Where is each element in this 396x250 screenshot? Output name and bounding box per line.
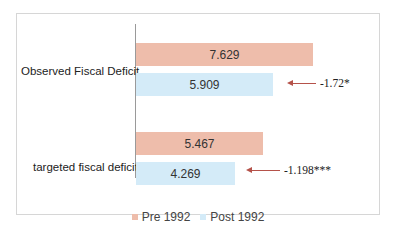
bar-value-label: 5.467 [184, 137, 214, 151]
legend: Pre 1992 Post 1992 [0, 210, 396, 224]
legend-swatch-icon [132, 214, 138, 220]
bar-targeted-post-1992: 4.269 [136, 162, 235, 185]
category-label-observed: Observed Fiscal Deficit [21, 65, 139, 77]
bar-observed-post-1992: 5.909 [136, 73, 273, 96]
legend-swatch-icon [200, 214, 206, 220]
legend-label: Pre 1992 [142, 210, 191, 224]
category-label-targeted: targeted fiscal deficit [33, 161, 138, 173]
bar-value-label: 7.629 [209, 48, 239, 62]
annotation-text: -1.198*** [284, 164, 331, 176]
bar-observed-pre-1992: 7.629 [136, 43, 313, 66]
annotation-text: -1.72* [320, 77, 350, 89]
bar-value-label: 5.909 [189, 78, 219, 92]
annotation-targeted: -1.198*** [246, 164, 331, 176]
legend-item-pre-1992: Pre 1992 [132, 210, 191, 224]
legend-item-post-1992: Post 1992 [200, 210, 264, 224]
arrow-line [252, 170, 280, 171]
bar-value-label: 4.269 [170, 167, 200, 181]
bar-targeted-pre-1992: 5.467 [136, 132, 263, 155]
arrow-line [293, 83, 316, 84]
annotation-observed: -1.72* [287, 77, 350, 89]
legend-label: Post 1992 [210, 210, 264, 224]
